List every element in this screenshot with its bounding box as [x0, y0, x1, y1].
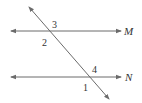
angle-label-1: 1: [83, 82, 88, 93]
diagram-canvas: 3 2 4 1 M N: [0, 0, 142, 103]
line-label-m: M: [123, 25, 134, 37]
angle-label-3: 3: [52, 19, 57, 30]
angle-label-2: 2: [42, 37, 47, 48]
angle-label-4: 4: [92, 64, 97, 75]
line-label-n: N: [124, 71, 133, 83]
transversal: [29, 7, 109, 99]
